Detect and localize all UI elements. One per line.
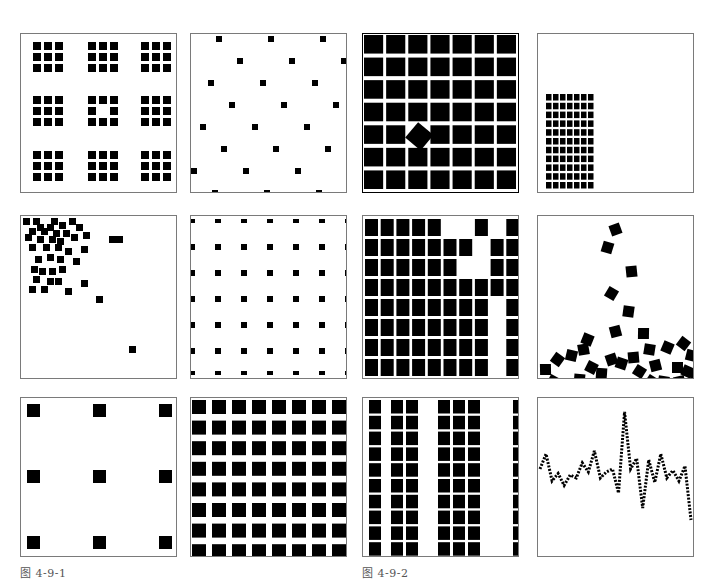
dot-square bbox=[191, 322, 195, 328]
grid-square bbox=[412, 359, 425, 376]
stripe-square bbox=[453, 416, 465, 430]
dot-square bbox=[273, 146, 279, 152]
grid-square bbox=[386, 170, 405, 189]
grid-square bbox=[428, 339, 441, 356]
cluster-square bbox=[141, 107, 149, 115]
dot-square bbox=[243, 168, 249, 174]
cluster-square bbox=[44, 151, 52, 159]
stripe-square bbox=[513, 511, 518, 524]
dot-square bbox=[293, 296, 299, 302]
grid-square bbox=[252, 503, 266, 517]
block-square bbox=[574, 147, 580, 154]
cluster-square bbox=[99, 162, 107, 170]
block-square bbox=[560, 138, 566, 145]
dot-square bbox=[293, 371, 299, 375]
cluster-square bbox=[152, 107, 160, 115]
falling-square bbox=[622, 305, 634, 317]
grid-square bbox=[312, 524, 326, 538]
grid-square bbox=[475, 103, 494, 122]
grid-square bbox=[444, 279, 457, 296]
grid-square bbox=[192, 524, 206, 538]
grid-square bbox=[212, 524, 226, 538]
stripe-square bbox=[453, 432, 465, 446]
scatter-square bbox=[83, 232, 90, 239]
cluster-square bbox=[163, 151, 171, 159]
grid-square bbox=[364, 170, 383, 189]
grid-square bbox=[381, 359, 394, 376]
block-square bbox=[588, 94, 594, 101]
dot-square bbox=[264, 190, 270, 192]
grid-square bbox=[396, 339, 409, 356]
cluster-square bbox=[152, 96, 160, 104]
panel-sparse-grid bbox=[20, 397, 177, 557]
grid-square bbox=[365, 299, 378, 316]
grid-square bbox=[332, 441, 346, 455]
cluster-square bbox=[55, 42, 63, 50]
sparse-square bbox=[159, 470, 172, 483]
cluster-square bbox=[88, 42, 96, 50]
grid-square bbox=[475, 219, 488, 236]
grid-square bbox=[272, 544, 286, 556]
grid-square bbox=[252, 400, 266, 414]
block-square bbox=[546, 120, 552, 127]
grid-square bbox=[364, 125, 383, 144]
grid-square bbox=[381, 219, 394, 236]
stripe-square bbox=[438, 511, 450, 524]
block-square bbox=[546, 173, 552, 180]
grid-square bbox=[365, 319, 378, 336]
block-square bbox=[581, 182, 587, 189]
falling-square bbox=[550, 352, 565, 367]
panel-corner-block bbox=[537, 33, 694, 193]
grid-square bbox=[475, 148, 494, 167]
stripe-square bbox=[513, 463, 518, 477]
block-square bbox=[588, 182, 594, 189]
grid-square bbox=[272, 441, 286, 455]
rotated-square bbox=[405, 122, 433, 150]
stripe-square bbox=[513, 526, 518, 540]
grid-square bbox=[428, 319, 441, 336]
stripe-square bbox=[468, 542, 480, 556]
block-square bbox=[546, 182, 552, 189]
block-square bbox=[553, 173, 559, 180]
grid-square bbox=[292, 503, 306, 517]
dot-square bbox=[319, 219, 325, 223]
scatter-square bbox=[37, 236, 44, 243]
cluster-square bbox=[55, 173, 63, 181]
stripe-square bbox=[453, 400, 465, 414]
cluster-square bbox=[152, 118, 160, 126]
stripe-square bbox=[391, 495, 403, 509]
grid-square bbox=[453, 80, 472, 99]
dot-square bbox=[267, 348, 273, 354]
cluster-square bbox=[163, 64, 171, 72]
cluster-square bbox=[33, 118, 41, 126]
block-square bbox=[567, 129, 573, 136]
grid-square bbox=[459, 239, 472, 256]
grid-square bbox=[497, 125, 516, 144]
stripe-square bbox=[438, 463, 450, 477]
grid-square bbox=[428, 219, 441, 236]
stripe-square bbox=[438, 526, 450, 540]
cluster-square bbox=[110, 118, 118, 126]
stripe-square bbox=[468, 447, 480, 461]
dot-square bbox=[267, 219, 273, 223]
dot-square bbox=[293, 348, 299, 354]
grid-square bbox=[475, 279, 488, 296]
block-square bbox=[567, 103, 573, 110]
block-square bbox=[553, 182, 559, 189]
block-square bbox=[553, 147, 559, 154]
grid-square bbox=[459, 279, 472, 296]
dot-square bbox=[304, 124, 310, 130]
grid-square bbox=[212, 462, 226, 476]
grid-square bbox=[396, 279, 409, 296]
scatter-square bbox=[81, 246, 88, 253]
grid-square bbox=[192, 421, 206, 435]
cluster-square bbox=[88, 118, 96, 126]
panel-2-canvas bbox=[191, 34, 346, 192]
cluster-square bbox=[110, 151, 118, 159]
stripe-square bbox=[369, 511, 381, 524]
grid-square bbox=[475, 125, 494, 144]
scatter-square bbox=[29, 228, 36, 235]
grid-square bbox=[453, 103, 472, 122]
panel-3-canvas bbox=[363, 34, 518, 192]
grid-square bbox=[475, 170, 494, 189]
